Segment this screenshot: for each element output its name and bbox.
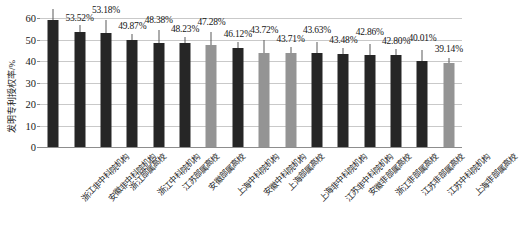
bar-group[interactable]: 42.80% xyxy=(383,18,409,147)
y-tick-label: 10 xyxy=(26,120,37,131)
bar-value-label: 46.12% xyxy=(224,29,252,39)
bar-group[interactable]: 43.72% xyxy=(251,18,277,147)
bar[interactable] xyxy=(153,43,164,147)
y-tick-label: 40 xyxy=(26,56,37,67)
bar-group[interactable]: 48.23% xyxy=(172,18,198,147)
error-bar xyxy=(158,30,159,43)
error-bar xyxy=(132,34,133,40)
error-bar xyxy=(396,49,397,55)
bar[interactable] xyxy=(232,48,243,147)
error-bar xyxy=(211,32,212,45)
bar-group[interactable]: 48.38% xyxy=(146,18,172,147)
bar-value-label: 58.95% xyxy=(39,0,67,2)
bar[interactable] xyxy=(100,33,111,147)
error-bar xyxy=(237,42,238,48)
error-bar xyxy=(185,37,186,43)
bar-value-label: 53.52% xyxy=(66,13,94,23)
bar-group[interactable]: 40.01% xyxy=(409,18,435,147)
bar-group[interactable]: 43.63% xyxy=(304,18,330,147)
error-bar xyxy=(343,48,344,54)
bar-value-label: 49.87% xyxy=(118,21,146,31)
bar-group[interactable]: 53.52% xyxy=(66,18,92,147)
bar-group[interactable]: 49.87% xyxy=(119,18,145,147)
bar[interactable] xyxy=(206,45,217,147)
y-tick-label: 0 xyxy=(31,142,36,153)
bar[interactable] xyxy=(391,55,402,147)
bar[interactable] xyxy=(364,55,375,147)
error-bar xyxy=(105,20,106,33)
bar[interactable] xyxy=(417,61,428,147)
y-tick-label: 20 xyxy=(26,99,37,110)
bar-group[interactable]: 42.86% xyxy=(357,18,383,147)
error-bar xyxy=(264,40,265,53)
bar[interactable] xyxy=(74,32,85,147)
error-bar xyxy=(53,9,54,20)
bar[interactable] xyxy=(311,53,322,147)
bar-group[interactable]: 53.18% xyxy=(93,18,119,147)
bar[interactable] xyxy=(259,53,270,147)
bar[interactable] xyxy=(338,54,349,147)
bar-value-label: 43.63% xyxy=(303,25,331,35)
error-bar xyxy=(369,44,370,55)
bar-value-label: 47.28% xyxy=(197,17,225,27)
bar[interactable] xyxy=(48,20,59,147)
error-bar xyxy=(448,58,449,63)
error-bar xyxy=(422,50,423,61)
bar-value-label: 43.48% xyxy=(329,35,357,45)
bar-group[interactable]: 58.95% xyxy=(40,18,66,147)
x-axis-labels: 浙江非中科院机构安徽非中科院机构浙江部属高校浙江中科院机构江苏部属高校安徽部属高… xyxy=(40,148,462,239)
y-tick-label: 60 xyxy=(26,13,37,24)
y-axis-title: 发明专利授权率/% xyxy=(5,37,18,157)
bar[interactable] xyxy=(443,63,454,147)
bar[interactable] xyxy=(285,53,296,147)
bar-value-label: 53.18% xyxy=(92,5,120,15)
bar[interactable] xyxy=(127,40,138,147)
bar-group[interactable]: 46.12% xyxy=(225,18,251,147)
bar-value-label: 43.71% xyxy=(277,34,305,44)
bar-value-label: 39.14% xyxy=(435,44,463,54)
bar-value-label: 48.38% xyxy=(145,15,173,25)
plot-area: 0102030405060 58.95%53.52%53.18%49.87%48… xyxy=(40,18,462,147)
error-bar xyxy=(316,42,317,53)
bars-layer: 58.95%53.52%53.18%49.87%48.38%48.23%47.2… xyxy=(40,18,462,147)
bar-group[interactable]: 43.71% xyxy=(277,18,303,147)
error-bar xyxy=(290,47,291,53)
bar-group[interactable]: 47.28% xyxy=(198,18,224,147)
bar-value-label: 42.86% xyxy=(356,27,384,37)
bar[interactable] xyxy=(180,43,191,147)
bar-value-label: 48.23% xyxy=(171,24,199,34)
bar-group[interactable]: 39.14% xyxy=(436,18,462,147)
bar-group[interactable]: 43.48% xyxy=(330,18,356,147)
error-bar xyxy=(79,25,80,32)
y-tick-label: 30 xyxy=(26,77,37,88)
y-tick-label: 50 xyxy=(26,34,37,45)
bar-value-label: 40.01% xyxy=(408,33,436,43)
bar-value-label: 43.72% xyxy=(250,25,278,35)
bar-value-label: 42.80% xyxy=(382,36,410,46)
